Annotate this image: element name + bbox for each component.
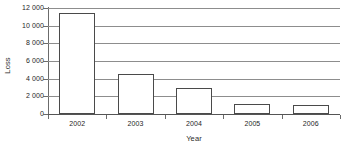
x-axis-tick-mark: [282, 115, 283, 119]
y-axis-title-text: Loss: [3, 57, 12, 73]
bar: [234, 104, 270, 114]
x-axis-tick-mark: [223, 115, 224, 119]
y-axis-tick-mark: [43, 79, 48, 80]
y-axis-tick-label: 12 000: [22, 4, 44, 12]
plot-area: [48, 8, 340, 114]
y-axis-tick-mark: [43, 61, 48, 62]
bar: [59, 13, 95, 114]
x-axis-tick-label: 2003: [106, 120, 164, 127]
y-axis-tick-label: 10 000: [22, 22, 44, 30]
x-axis-tick-label: 2004: [165, 120, 223, 127]
gridline: [48, 8, 340, 9]
x-axis-tick-label: 2005: [223, 120, 281, 127]
y-axis-tick-mark: [43, 43, 48, 44]
y-axis-tick-mark: [43, 96, 48, 97]
y-axis-tick-label: 8 000: [26, 39, 44, 47]
x-axis-tick-mark: [48, 115, 49, 119]
bar: [293, 105, 329, 114]
x-axis-tick-label: 2002: [48, 120, 106, 127]
y-axis-tick-labels: 02 0004 0006 0008 00010 00012 000: [12, 0, 46, 122]
x-axis-tick-mark: [165, 115, 166, 119]
x-axis-line: [48, 114, 340, 115]
y-axis-tick-label: 4 000: [26, 75, 44, 83]
y-axis-tick-mark: [43, 26, 48, 27]
y-axis-tick-label: 2 000: [26, 92, 44, 100]
x-axis-title: Year: [165, 134, 223, 143]
x-axis-tick-mark: [340, 115, 341, 119]
x-axis-tick-label: 2006: [282, 120, 340, 127]
bar-chart: Loss 02 0004 0006 0008 00010 00012 000 Y…: [0, 0, 348, 157]
bar: [176, 88, 212, 115]
y-axis-tick-label: 6 000: [26, 57, 44, 65]
y-axis-tick-mark: [43, 8, 48, 9]
x-axis-tick-mark: [106, 115, 107, 119]
bar: [118, 74, 154, 114]
